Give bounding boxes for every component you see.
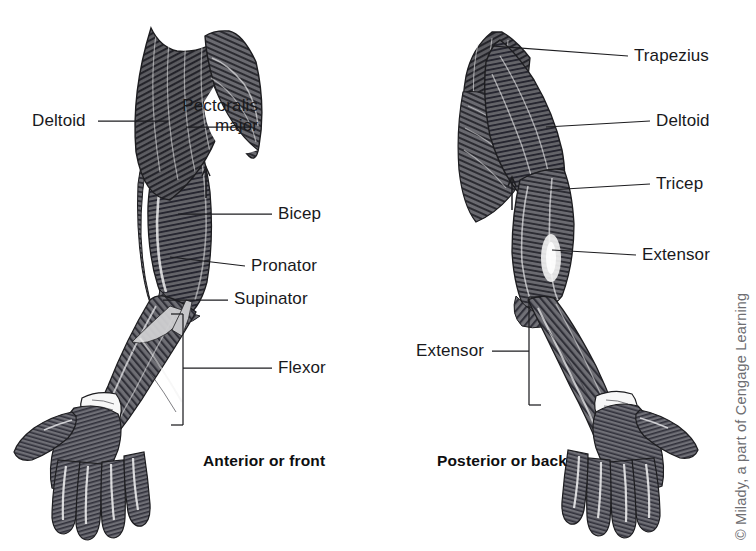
label-trapezius: Trapezius [634, 46, 709, 66]
label-pronator: Pronator [251, 256, 317, 276]
label-pectoralis-major: Pectoralis major [166, 96, 258, 136]
label-bicep: Bicep [278, 204, 321, 224]
left-hand [14, 406, 150, 540]
copyright-credit: © Milady, a part of Cengage Learning [733, 293, 749, 540]
tricep-muscle [512, 169, 574, 313]
label-deltoid-right: Deltoid [656, 111, 710, 131]
caption-posterior: Posterior or back [437, 452, 567, 470]
label-supinator: Supinator [234, 289, 308, 309]
anatomy-illustration [0, 0, 756, 551]
label-pectoralis-major-line2: major [166, 116, 258, 136]
figure-muscles-of-arm: Deltoid Pectoralis major Bicep Pronator … [0, 0, 756, 551]
label-extensor-forearm: Extensor [364, 341, 484, 361]
caption-anterior: Anterior or front [203, 452, 325, 470]
right-hand [562, 404, 698, 538]
label-deltoid-left: Deltoid [32, 111, 86, 131]
label-tricep: Tricep [656, 174, 703, 194]
label-extensor-upper: Extensor [642, 245, 710, 265]
label-flexor: Flexor [278, 358, 326, 378]
label-pectoralis-major-line1: Pectoralis [166, 96, 258, 116]
